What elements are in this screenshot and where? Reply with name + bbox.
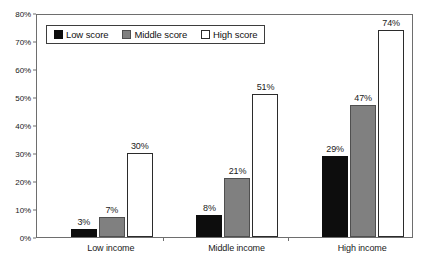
legend-item: High score (201, 29, 257, 40)
bar-column: 47% (350, 13, 376, 237)
y-tick-label: 50% (15, 94, 31, 103)
bar-middle-score (350, 105, 376, 237)
bar-value-label: 3% (77, 217, 90, 227)
legend-item: Low score (54, 29, 108, 40)
category-separator-tick (288, 237, 289, 241)
bar-column: 21% (224, 13, 250, 237)
legend-label: Low score (66, 29, 108, 40)
legend-label: Middle score (134, 29, 187, 40)
y-tick-label: 40% (15, 122, 31, 131)
legend-swatch-low-icon (54, 30, 63, 39)
legend-label: High score (213, 29, 257, 40)
bar-value-label: 47% (354, 93, 372, 103)
plot-frame: 3%7%30%8%21%51%29%47%74% (36, 14, 413, 238)
y-tick-label: 10% (15, 206, 31, 215)
bar-value-label: 8% (203, 203, 216, 213)
bar-column: 30% (127, 13, 153, 237)
bar-value-label: 21% (229, 166, 247, 176)
x-tick-label: High income (338, 243, 387, 253)
bar-column: 8% (196, 13, 222, 237)
bar-group: 29%47%74% (288, 15, 414, 237)
bar-column: 29% (322, 13, 348, 237)
bar-value-label: 74% (382, 18, 400, 28)
y-tick-label: 30% (15, 150, 31, 159)
y-tick-label: 80% (15, 10, 31, 19)
bar-value-label: 30% (131, 141, 149, 151)
bar-group: 8%21%51% (163, 15, 289, 237)
bar-column: 7% (99, 13, 125, 237)
bar-low-score (322, 156, 348, 237)
bar-column: 3% (71, 13, 97, 237)
chart-legend: Low scoreMiddle scoreHigh score (46, 25, 265, 44)
x-axis: Low incomeMiddle incomeHigh income (36, 243, 413, 263)
plot-area: 3%7%30%8%21%51%29%47%74% (37, 15, 412, 237)
bar-middle-score (99, 217, 125, 237)
bar-high-score (252, 94, 278, 237)
legend-swatch-high-icon (201, 30, 210, 39)
bar-low-score (71, 229, 97, 237)
bar-column: 51% (252, 13, 278, 237)
y-axis: 0%10%20%30%40%50%60%70%80% (0, 14, 36, 238)
y-tick-label: 20% (15, 178, 31, 187)
legend-swatch-middle-icon (122, 30, 131, 39)
category-separator-tick (163, 237, 164, 241)
y-tick-label: 60% (15, 66, 31, 75)
bar-value-label: 51% (257, 82, 275, 92)
bar-chart: 0%10%20%30%40%50%60%70%80% 3%7%30%8%21%5… (0, 0, 424, 267)
bar-column: 74% (378, 13, 404, 237)
bar-high-score (127, 153, 153, 237)
bar-group: 3%7%30% (37, 15, 163, 237)
legend-item: Middle score (122, 29, 187, 40)
x-tick-label: Middle income (208, 243, 265, 253)
bar-value-label: 7% (105, 205, 118, 215)
y-tick-label: 0% (20, 234, 31, 243)
bar-value-label: 29% (326, 144, 344, 154)
bar-low-score (196, 215, 222, 237)
x-tick-label: Low income (87, 243, 134, 253)
bar-high-score (378, 30, 404, 237)
y-tick-label: 70% (15, 38, 31, 47)
bar-middle-score (224, 178, 250, 237)
